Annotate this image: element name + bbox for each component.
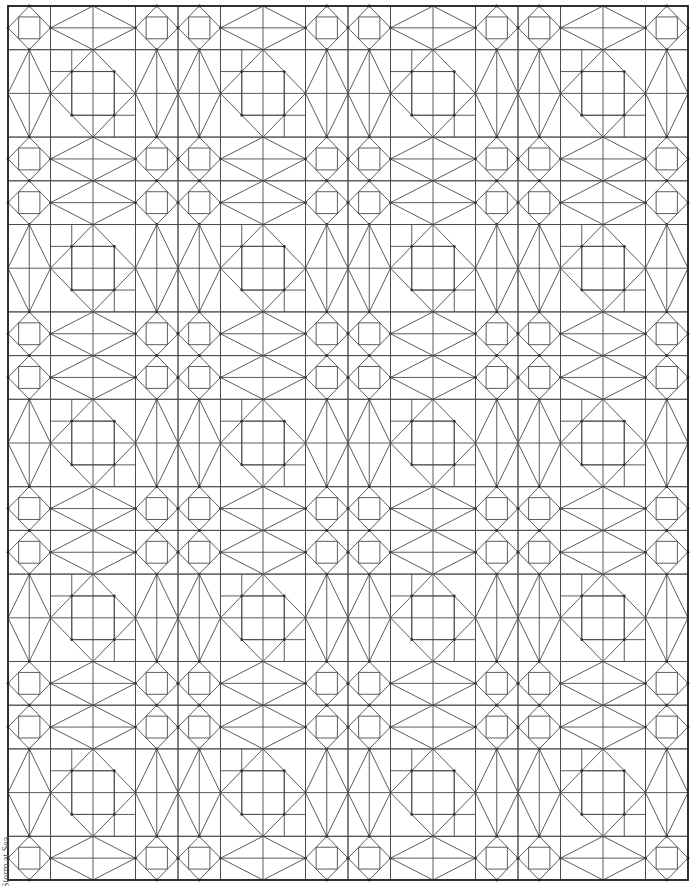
storm-at-sea-quilt-diagram	[0, 0, 693, 886]
pattern-title-label: Storm at Sea	[1, 808, 11, 886]
